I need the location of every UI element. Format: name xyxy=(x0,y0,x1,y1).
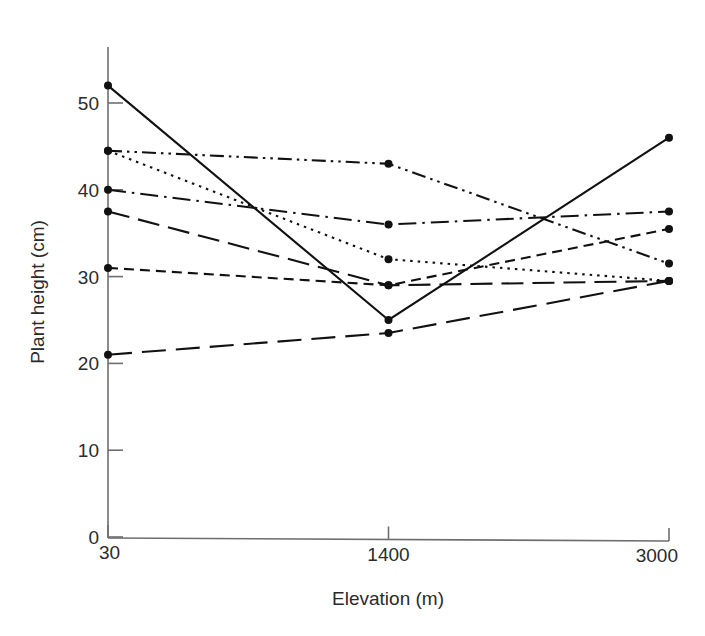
data-point-marker xyxy=(665,225,673,233)
chart-container: 01020304050 3014003000 Elevation (m) Pla… xyxy=(0,0,705,636)
y-axis-title: Plant height (cm) xyxy=(27,220,48,364)
data-point-marker xyxy=(665,208,673,216)
data-point-marker xyxy=(385,160,393,168)
line-chart: 01020304050 3014003000 Elevation (m) Pla… xyxy=(0,0,705,636)
y-tick-label: 40 xyxy=(78,180,99,201)
data-point-marker xyxy=(665,260,673,268)
y-tick-label: 20 xyxy=(78,353,99,374)
data-point-marker xyxy=(104,82,112,90)
y-tick-label: 30 xyxy=(78,267,99,288)
y-tick-label: 10 xyxy=(78,440,99,461)
data-point-marker xyxy=(385,255,393,263)
data-point-marker xyxy=(665,134,673,142)
data-point-marker xyxy=(104,351,112,359)
data-point-marker xyxy=(385,221,393,229)
data-point-marker xyxy=(104,208,112,216)
x-tick-label: 3000 xyxy=(636,545,678,566)
y-tick-label: 0 xyxy=(88,527,99,548)
data-point-marker xyxy=(104,147,112,155)
data-point-marker xyxy=(385,316,393,324)
x-tick-label: 1400 xyxy=(367,544,409,565)
data-point-marker xyxy=(385,329,393,337)
data-point-marker xyxy=(104,186,112,194)
x-axis-title: Elevation (m) xyxy=(332,588,444,609)
y-tick-label: 50 xyxy=(78,93,99,114)
data-point-marker xyxy=(104,264,112,272)
data-point-marker xyxy=(665,277,673,285)
data-point-marker xyxy=(385,281,393,289)
x-tick-label: 30 xyxy=(99,542,120,563)
